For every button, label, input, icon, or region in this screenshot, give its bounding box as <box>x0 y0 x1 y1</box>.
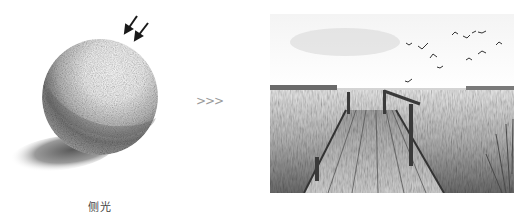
triple-chevron-arrow: >>> <box>196 94 223 108</box>
distant-shore-left <box>270 85 337 90</box>
cloud <box>290 28 400 56</box>
sphere <box>42 39 158 155</box>
pier-illustration <box>270 14 514 193</box>
sphere-drawing <box>0 0 200 200</box>
sphere-illustration: 侧光 <box>0 0 200 222</box>
distant-shore-right <box>466 86 514 90</box>
pier-drawing <box>270 14 514 193</box>
caption-side-light: 侧光 <box>0 198 200 214</box>
light-direction-arrows <box>125 16 148 40</box>
